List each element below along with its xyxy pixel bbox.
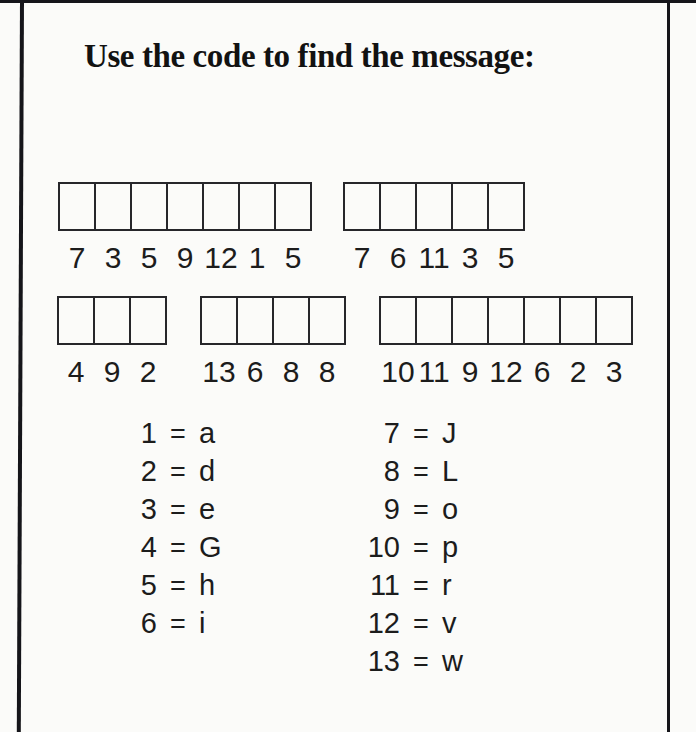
answer-cells [57,296,167,345]
code-number: 4 [58,357,94,387]
key-letter: e [199,490,221,528]
key-entry: 5=h [112,566,222,604]
key-entry: 9=o [355,490,464,528]
answer-cell[interactable] [595,296,633,345]
code-number: 3 [596,357,632,387]
code-number: 11 [416,243,452,273]
answer-cell[interactable] [379,182,417,231]
answer-cell[interactable] [274,182,312,231]
key-number: 6 [112,604,157,642]
code-number: 9 [167,243,203,273]
code-number: 8 [309,357,345,387]
page-right-border-line [667,0,670,732]
key-entry: 3=e [112,490,222,528]
key-letter: J [442,414,464,452]
key-entry: 10=p [355,528,464,566]
key-number: 8 [355,452,400,490]
answer-cell[interactable] [130,182,168,231]
code-number: 6 [524,357,560,387]
answer-cell[interactable] [272,296,310,345]
code-number: 2 [560,357,596,387]
key-letter: o [442,490,464,528]
key-number: 5 [112,566,157,604]
page-title: Use the code to find the message: [84,38,535,75]
code-number: 7 [59,243,95,273]
code-numbers: 1011912623 [379,357,633,387]
answer-cell[interactable] [129,296,167,345]
page-top-border-line [0,0,696,3]
key-number: 10 [355,528,400,566]
code-number: 6 [237,357,273,387]
answer-cell[interactable] [415,182,453,231]
code-key-right-column: 7=J8=L9=o10=p11=r12=v13=w [355,414,464,680]
code-numbers: 761135 [343,243,525,273]
code-number: 5 [275,243,311,273]
answer-cell[interactable] [487,296,525,345]
answer-cell[interactable] [166,182,204,231]
answer-cell[interactable] [379,296,417,345]
code-number: 3 [95,243,131,273]
code-number: 8 [273,357,309,387]
code-number: 9 [452,357,488,387]
puzzle-row-2: 492136881011912623 [57,296,633,387]
answer-cells [343,182,525,231]
key-number: 7 [355,414,400,452]
answer-cell[interactable] [202,182,240,231]
answer-cell[interactable] [58,182,96,231]
answer-cell[interactable] [343,182,381,231]
equals-sign: = [400,491,442,529]
answer-cell[interactable] [200,296,238,345]
key-letter: L [442,452,464,490]
key-letter: p [442,528,464,566]
key-entry: 1=a [112,414,222,452]
key-entry: 2=d [112,452,222,490]
equals-sign: = [157,453,199,491]
word-group: 13688 [200,296,346,387]
key-number: 11 [355,566,400,604]
key-letter: w [442,642,464,680]
answer-cell[interactable] [487,182,525,231]
answer-cell[interactable] [308,296,346,345]
code-number: 11 [416,357,452,387]
key-letter: G [199,528,222,566]
answer-cell[interactable] [451,182,489,231]
code-number: 13 [201,357,237,387]
equals-sign: = [157,491,199,529]
word-group: 73591215 [58,182,312,273]
equals-sign: = [400,529,442,567]
equals-sign: = [400,415,442,453]
key-letter: i [199,604,221,642]
answer-cell[interactable] [94,182,132,231]
code-numbers: 492 [57,357,167,387]
key-number: 1 [112,414,157,452]
code-key-left-column: 1=a2=d3=e4=G5=h6=i [112,414,222,642]
key-letter: r [442,566,464,604]
equals-sign: = [400,605,442,643]
answer-cell[interactable] [559,296,597,345]
code-numbers: 13688 [200,357,346,387]
puzzle-row-1: 73591215761135 [58,182,525,273]
equals-sign: = [400,453,442,491]
key-entry: 4=G [112,528,222,566]
key-number: 4 [112,528,157,566]
key-entry: 11=r [355,566,464,604]
answer-cells [379,296,633,345]
key-number: 13 [355,642,400,680]
key-entry: 6=i [112,604,222,642]
code-number: 1 [239,243,275,273]
answer-cell[interactable] [523,296,561,345]
equals-sign: = [157,605,199,643]
answer-cells [200,296,346,345]
key-entry: 13=w [355,642,464,680]
code-number: 12 [203,243,239,273]
answer-cell[interactable] [238,182,276,231]
answer-cell[interactable] [93,296,131,345]
answer-cell[interactable] [236,296,274,345]
answer-cells [58,182,312,231]
word-group: 1011912623 [379,296,633,387]
answer-cell[interactable] [415,296,453,345]
key-letter: v [442,604,464,642]
answer-cell[interactable] [451,296,489,345]
code-number: 6 [380,243,416,273]
answer-cell[interactable] [57,296,95,345]
